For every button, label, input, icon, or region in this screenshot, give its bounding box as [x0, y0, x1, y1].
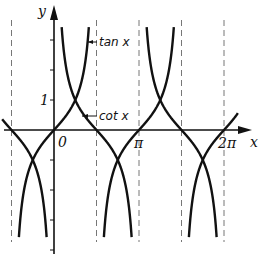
y-axis-arrow-icon [50, 5, 58, 20]
x-axis-label: x [250, 134, 258, 150]
tan-label: tan x [99, 35, 130, 49]
y-axis-label: y [37, 3, 47, 19]
two-pi-label: 2π [217, 135, 237, 151]
origin-label: 0 [58, 134, 67, 150]
curves [2, 27, 238, 237]
x-axis-arrow-icon [238, 126, 252, 134]
y-one-label: 1 [40, 92, 49, 108]
tan-cot-chart: y x 0 π 2π 1 tan x cot x [0, 0, 261, 266]
pi-label: π [133, 135, 144, 151]
cot-curve [2, 119, 46, 237]
cot-label: cot x [99, 109, 129, 123]
tan-curve [189, 113, 238, 237]
